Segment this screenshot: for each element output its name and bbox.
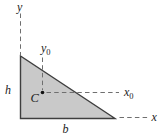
centroid-dot bbox=[41, 91, 45, 95]
x0-axis-label-subscript: 0 bbox=[129, 91, 133, 101]
base-dimension-label: b bbox=[63, 122, 69, 136]
y-axis-label: y bbox=[16, 0, 23, 14]
x-axis-label: x bbox=[151, 110, 158, 124]
figure-canvas: y y0 x0 x h b C bbox=[0, 0, 165, 137]
centroid-label: C bbox=[31, 91, 40, 105]
right-triangle-shape bbox=[21, 56, 116, 119]
y0-axis-label: y0 bbox=[40, 41, 51, 57]
height-dimension-label: h bbox=[5, 83, 11, 97]
x0-axis-label: x0 bbox=[123, 85, 134, 101]
y0-axis-label-subscript: 0 bbox=[46, 47, 50, 57]
triangle-centroid-figure: y y0 x0 x h b C bbox=[0, 0, 165, 137]
